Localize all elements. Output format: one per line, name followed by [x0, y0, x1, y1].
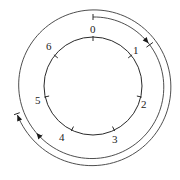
position-label-0: 0 [90, 23, 96, 35]
position-label-3: 3 [112, 133, 118, 145]
spiral-tick-mark [146, 42, 152, 47]
position-labels: 0 1 2 3 4 5 6 [35, 23, 147, 145]
position-label-6: 6 [46, 40, 52, 52]
position-label-4: 4 [59, 131, 65, 143]
spiral-tick-mark [14, 113, 20, 115]
position-label-1: 1 [133, 44, 139, 56]
spiral-position-diagram: 0 1 2 3 4 5 6 [0, 0, 180, 180]
position-label-5: 5 [35, 94, 41, 106]
inner-circle [44, 37, 142, 135]
spiral-markers [14, 14, 153, 139]
position-label-2: 2 [141, 98, 147, 110]
